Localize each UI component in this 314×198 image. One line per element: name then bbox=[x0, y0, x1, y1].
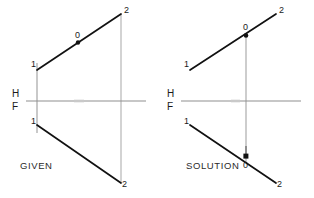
solution-top-view-line-group bbox=[190, 14, 276, 70]
given-top-point-0-label: 0 bbox=[75, 31, 80, 40]
given-reference-label-h: H bbox=[12, 89, 19, 99]
solution-front-point-1-label: 1 bbox=[184, 117, 189, 126]
solution-reference-label-f: F bbox=[167, 102, 173, 112]
solution-top-view-line bbox=[190, 14, 276, 70]
solution-top-point-2-label: 2 bbox=[279, 6, 284, 15]
given-top-point-1-label: 1 bbox=[31, 60, 36, 69]
given-reference-label-f: F bbox=[12, 102, 18, 112]
solution-reference-label-h: H bbox=[167, 89, 174, 99]
given-front-point-1-label: 1 bbox=[31, 117, 36, 126]
given-front-point-2-label: 2 bbox=[122, 180, 127, 189]
given-caption: GIVEN bbox=[20, 161, 53, 171]
given-point-0-marker bbox=[76, 40, 80, 44]
given-top-view-line-group bbox=[37, 14, 121, 70]
given-top-point-2-label: 2 bbox=[124, 6, 129, 15]
solution-caption: SOLUTION bbox=[186, 161, 239, 171]
given-front-view-line bbox=[37, 125, 121, 183]
solution-top-point-0-marker bbox=[244, 33, 249, 38]
solution-front-point-0-marker bbox=[243, 154, 248, 159]
solution-front-point-0-label: 0 bbox=[243, 161, 248, 170]
technical-drawing-figure: 1 2 0 1 2 H F GIVEN 1 2 0 1 2 0 H F SOLU… bbox=[0, 0, 314, 198]
solution-front-view-line-group bbox=[190, 125, 276, 183]
solution-front-view-line bbox=[190, 125, 276, 183]
solution-front-point-2-label: 2 bbox=[277, 180, 282, 189]
solution-top-point-1-label: 1 bbox=[184, 60, 189, 69]
solution-top-point-0-label: 0 bbox=[243, 23, 248, 32]
given-front-view-line-group bbox=[37, 125, 121, 183]
